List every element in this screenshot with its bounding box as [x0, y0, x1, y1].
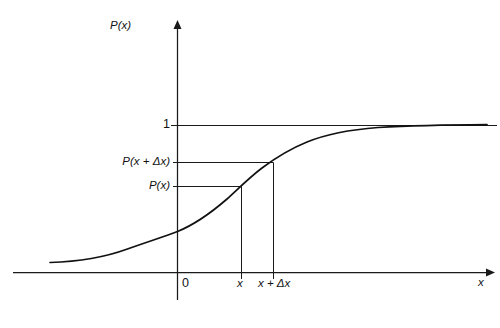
origin-label-zero: 0 — [182, 277, 189, 290]
y-tick-label-p-x-plus-dx: P(x + Δx) — [46, 156, 170, 168]
y-axis-title: P(x) — [110, 20, 131, 32]
figure-container: P(x) x 1 P(x + Δx) P(x) 0 x x + Δx — [0, 0, 500, 328]
y-tick-label-one: 1 — [150, 118, 170, 131]
x-tick-label-x-plus-dx: x + Δx — [258, 278, 290, 290]
probability-curve — [50, 125, 487, 263]
x-axis-arrow-icon — [486, 269, 495, 277]
y-axis-arrow-icon — [174, 20, 182, 29]
y-tick-label-p-x: P(x) — [46, 180, 170, 192]
x-tick-label-x: x — [237, 278, 243, 290]
x-axis-title: x — [478, 277, 484, 289]
